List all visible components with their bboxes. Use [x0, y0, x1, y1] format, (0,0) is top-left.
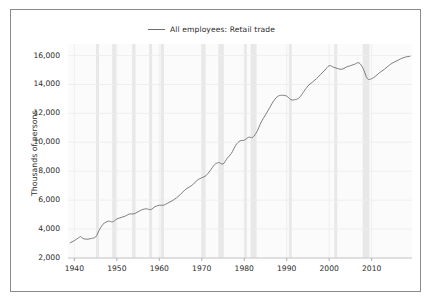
- x-tick-label: 1990: [267, 264, 307, 273]
- recession-band: [251, 44, 257, 258]
- plot-background: [68, 44, 412, 258]
- recession-band: [132, 44, 135, 258]
- x-tick-label: 1940: [54, 264, 94, 273]
- x-tick-label: 1950: [97, 264, 137, 273]
- y-tick-label: 6,000: [0, 195, 60, 204]
- y-axis-title: Thousands of persons: [30, 111, 39, 196]
- x-tick-label: 1960: [139, 264, 179, 273]
- y-tick-label: 14,000: [0, 79, 60, 88]
- legend-label: All employees: Retail trade: [170, 25, 275, 34]
- chart-canvas: [0, 0, 431, 302]
- chart-legend: All employees: Retail trade: [148, 22, 275, 36]
- chart-figure: All employees: Retail trade Thousands of…: [0, 0, 431, 302]
- y-tick-label: 10,000: [0, 137, 60, 146]
- y-tick-label: 2,000: [0, 253, 60, 262]
- recession-band: [161, 44, 164, 258]
- recession-band: [96, 44, 99, 258]
- x-tick-label: 2000: [309, 264, 349, 273]
- recession-band: [289, 44, 292, 258]
- y-tick-label: 4,000: [0, 224, 60, 233]
- recession-band: [334, 44, 337, 258]
- y-tick-label: 12,000: [0, 108, 60, 117]
- legend-line-swatch: [148, 29, 165, 30]
- x-tick-label: 2010: [352, 264, 392, 273]
- y-tick-label: 8,000: [0, 166, 60, 175]
- plot-area: [0, 0, 431, 302]
- recession-band: [112, 44, 116, 258]
- recession-band: [218, 44, 224, 258]
- x-tick-label: 1980: [224, 264, 264, 273]
- y-tick-label: 16,000: [0, 51, 60, 60]
- recession-band: [149, 44, 152, 258]
- x-tick-label: 1970: [182, 264, 222, 273]
